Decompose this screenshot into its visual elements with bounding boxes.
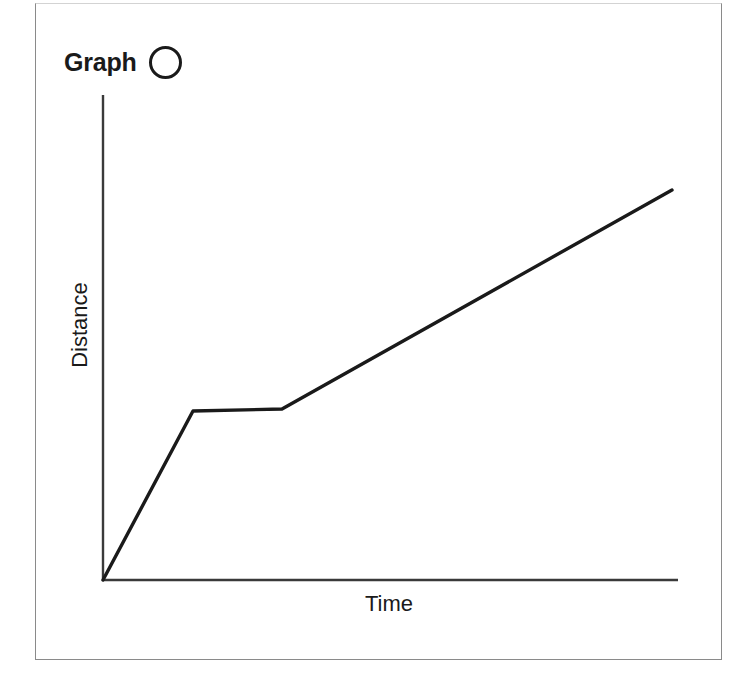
- distance-time-chart: [0, 0, 739, 683]
- y-axis-label: Distance: [67, 282, 93, 368]
- worksheet-page: Graph Distance Time: [0, 0, 739, 683]
- data-line: [103, 190, 672, 580]
- x-axis-label: Time: [365, 591, 413, 617]
